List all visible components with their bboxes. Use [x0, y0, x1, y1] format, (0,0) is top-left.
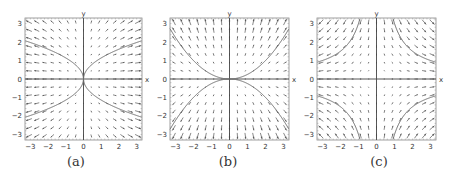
arrow-head: [131, 37, 133, 38]
arrow-head: [197, 28, 198, 30]
arrow-head: [319, 62, 321, 63]
panel-a: −3−2−10123−3−2−10123xy (a): [0, 0, 152, 178]
arrow-head: [277, 28, 279, 30]
arrow-head: [253, 120, 254, 122]
arrow-head: [123, 54, 125, 55]
caption-c: (c): [302, 154, 456, 169]
x-tick-label: 1: [392, 143, 396, 151]
arrow-head: [400, 22, 401, 24]
y-tick-label: 3: [310, 20, 314, 28]
arrow-head: [181, 19, 183, 21]
arrow-head: [360, 126, 361, 128]
arrow-head: [131, 119, 133, 120]
arrow-head: [26, 21, 28, 23]
arrow-head: [352, 134, 353, 136]
x-axis-label: x: [145, 76, 149, 84]
x-tick-label: −3: [170, 143, 180, 151]
arrow-head: [172, 28, 174, 30]
arrow-head: [131, 46, 133, 47]
arrow-head: [269, 28, 270, 30]
arrow-head: [277, 19, 279, 21]
arrow-head: [131, 127, 133, 129]
x-tick-label: −2: [335, 143, 345, 151]
arrow-head: [139, 111, 141, 113]
arrow-head: [139, 86, 141, 88]
arrow-head: [26, 119, 28, 121]
arrow-head: [197, 137, 199, 139]
y-tick-label: 2: [163, 39, 167, 47]
y-axis-label: y: [81, 10, 85, 18]
arrow-head: [181, 136, 183, 138]
arrow-head: [277, 136, 279, 138]
x-axis-label: x: [439, 76, 443, 84]
y-tick-label: 1: [18, 57, 22, 65]
y-tick-label: −1: [304, 94, 314, 102]
y-tick-label: −3: [157, 131, 167, 139]
arrow-head: [319, 94, 321, 95]
y-tick-label: 3: [18, 20, 22, 28]
arrow-head: [269, 137, 271, 139]
x-tick-label: 0: [374, 143, 378, 151]
arrow-head: [26, 86, 28, 88]
x-tick-label: 3: [134, 143, 138, 151]
arrow-head: [26, 136, 28, 138]
arrow-head: [352, 22, 353, 24]
caption-a: (a): [0, 154, 152, 169]
arrow-head: [34, 111, 36, 112]
arrow-head: [197, 36, 198, 38]
arrow-head: [172, 128, 174, 130]
y-tick-label: 2: [310, 39, 314, 47]
panel-b: −3−2−10123−3−2−10123xy (b): [152, 0, 304, 178]
arrow-head: [327, 62, 329, 63]
y-axis-label: y: [227, 10, 231, 18]
y-tick-label: −1: [12, 94, 22, 102]
arrow-head: [181, 128, 183, 130]
solution-curve: [84, 41, 142, 79]
arrow-head: [189, 28, 190, 30]
arrow-head: [269, 19, 271, 21]
arrow-head: [139, 70, 141, 72]
arrow-head: [172, 136, 174, 139]
arrow-head: [131, 111, 133, 112]
x-tick-label: 3: [281, 143, 285, 151]
arrow-head: [205, 120, 206, 122]
y-tick-label: 2: [18, 39, 22, 47]
x-tick-label: 1: [245, 143, 249, 151]
arrow-head: [197, 19, 199, 21]
arrow-head: [432, 54, 434, 55]
x-tick-label: 0: [227, 143, 231, 151]
arrow-head: [425, 94, 427, 95]
arrow-head: [205, 36, 206, 38]
x-tick-label: 3: [428, 143, 432, 151]
arrow-head: [253, 36, 254, 38]
x-tick-label: 2: [410, 143, 414, 151]
arrow-head: [181, 28, 183, 30]
solution-curve: [25, 41, 83, 79]
x-tick-label: −3: [317, 143, 327, 151]
y-tick-label: 1: [163, 57, 167, 65]
y-tick-label: −2: [157, 112, 167, 120]
arrow-head: [123, 103, 125, 104]
arrow-head: [319, 54, 321, 55]
x-tick-label: 2: [117, 143, 121, 151]
arrow-head: [139, 127, 141, 129]
y-tick-label: −3: [12, 131, 22, 139]
arrow-head: [285, 28, 287, 30]
panel-c: −3−2−10123−3−2−10123xy (c): [302, 0, 456, 178]
arrow-head: [34, 119, 36, 120]
solution-curve: [393, 96, 436, 139]
arrow-head: [34, 127, 36, 129]
y-tick-label: −3: [304, 131, 314, 139]
arrow-head: [319, 102, 321, 103]
x-tick-label: −1: [61, 143, 71, 151]
x-tick-label: 1: [99, 143, 103, 151]
arrow-head: [261, 36, 262, 38]
x-tick-label: −2: [43, 143, 53, 151]
arrow-head: [189, 128, 190, 130]
arrow-head: [34, 29, 36, 31]
arrow-head: [425, 62, 427, 63]
arrow-head: [433, 62, 435, 63]
x-tick-label: −1: [353, 143, 363, 151]
y-tick-label: 0: [163, 76, 167, 84]
arrow-head: [139, 21, 141, 23]
